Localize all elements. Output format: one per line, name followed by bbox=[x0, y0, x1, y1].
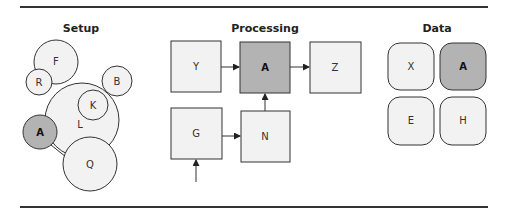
box-label-y: Y bbox=[192, 61, 200, 72]
box-node-n[interactable]: N bbox=[241, 111, 290, 162]
box-label-a: A bbox=[261, 62, 269, 73]
tile-node-h[interactable]: H bbox=[440, 97, 486, 145]
box-label-g: G bbox=[192, 128, 200, 139]
data-title: Data bbox=[422, 22, 451, 35]
tile-node-x[interactable]: X bbox=[388, 43, 434, 90]
box-label-z: Z bbox=[332, 62, 339, 73]
box-node-z[interactable]: Z bbox=[310, 42, 361, 93]
circle-label-l: L bbox=[77, 119, 83, 130]
circle-label-q: Q bbox=[86, 159, 94, 170]
processing-panel: Processing Y A Z G N bbox=[171, 22, 361, 182]
tile-node-a[interactable]: A bbox=[440, 43, 486, 90]
circle-node-k[interactable]: K bbox=[78, 90, 108, 120]
tile-label-a: A bbox=[459, 61, 467, 72]
box-label-n: N bbox=[261, 131, 268, 142]
tile-node-e[interactable]: E bbox=[388, 97, 434, 145]
circle-label-f: F bbox=[53, 56, 59, 67]
circle-node-r[interactable]: R bbox=[26, 69, 52, 95]
circle-label-k: K bbox=[90, 100, 97, 111]
setup-panel: Setup F R B L K A Q bbox=[23, 22, 132, 191]
tile-label-x: X bbox=[408, 61, 415, 72]
setup-title: Setup bbox=[63, 22, 99, 35]
tile-label-h: H bbox=[459, 115, 467, 126]
circle-node-a[interactable]: A bbox=[23, 115, 57, 149]
circle-node-b[interactable]: B bbox=[102, 66, 132, 96]
circle-label-b: B bbox=[114, 76, 121, 87]
circle-node-q[interactable]: Q bbox=[63, 137, 117, 191]
data-panel: Data X A E H bbox=[388, 22, 486, 145]
tile-label-e: E bbox=[408, 115, 414, 126]
box-node-a[interactable]: A bbox=[240, 42, 290, 93]
circle-label-r: R bbox=[36, 77, 43, 88]
diagram-canvas: Setup F R B L K A Q bbox=[0, 0, 507, 210]
circle-label-a: A bbox=[36, 127, 44, 138]
processing-title: Processing bbox=[231, 22, 299, 35]
box-node-g[interactable]: G bbox=[171, 108, 222, 159]
box-node-y[interactable]: Y bbox=[171, 41, 221, 92]
